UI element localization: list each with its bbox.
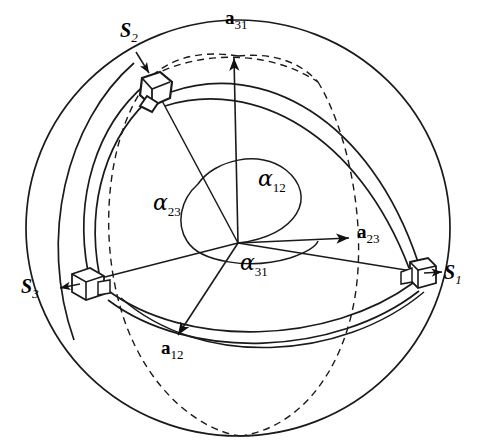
- axis-line-S3: [97, 243, 238, 279]
- joint-label-s3-base: S: [21, 275, 32, 297]
- angle-label-alpha12-base: α: [258, 166, 273, 191]
- joint-label-s2-sub: 2: [131, 30, 138, 45]
- joint-label-s3-sub: 3: [32, 286, 39, 301]
- joint-label-s1-sub: 1: [455, 272, 462, 287]
- joint-label-s1-base: S: [444, 261, 455, 283]
- joint-label-s3: S3: [21, 276, 39, 296]
- joint-arrow-s2: [136, 52, 149, 73]
- angle-label-alpha31-base: α: [240, 250, 255, 275]
- angle-label-alpha23-sub: 23: [168, 204, 181, 219]
- vector-label-a23-sub: 23: [367, 231, 380, 246]
- hidden-meridians: [109, 54, 359, 436]
- angle-arc-alpha23: [181, 184, 198, 241]
- vector-label-a23: a23: [357, 222, 380, 241]
- angle-label-alpha23: α23: [153, 192, 181, 214]
- axis-line-S2: [160, 97, 238, 243]
- vector-label-a23-base: a: [357, 221, 367, 242]
- vector-label-a12: a12: [161, 338, 184, 357]
- angle-label-alpha12: α12: [258, 168, 286, 190]
- angle-label-alpha31-sub: 31: [255, 264, 268, 279]
- angle-label-alpha31: α31: [240, 252, 268, 274]
- figure-root: S2 S1 S3 a31 a23 a12 α12 α23 α31: [0, 0, 499, 447]
- joint-label-s2-base: S: [120, 19, 131, 41]
- vector-label-a31: a31: [225, 8, 248, 27]
- vector-label-a31-sub: 31: [235, 17, 248, 32]
- joint-arrow-s1: [424, 272, 442, 273]
- vector-a31: [234, 58, 238, 243]
- vector-label-a12-base: a: [161, 337, 171, 358]
- joint-label-s1: S1: [444, 262, 462, 282]
- angle-label-alpha12-sub: 12: [273, 180, 286, 195]
- link-band-S3-S1: [106, 283, 419, 343]
- link-band-S3-S2: [84, 84, 155, 273]
- vector-label-a12-sub: 12: [171, 347, 184, 362]
- joint-label-s2: S2: [120, 20, 138, 40]
- vector-label-a31-base: a: [225, 7, 235, 28]
- spherical-mechanism-diagram: [0, 0, 499, 447]
- angle-label-alpha23-base: α: [153, 190, 168, 215]
